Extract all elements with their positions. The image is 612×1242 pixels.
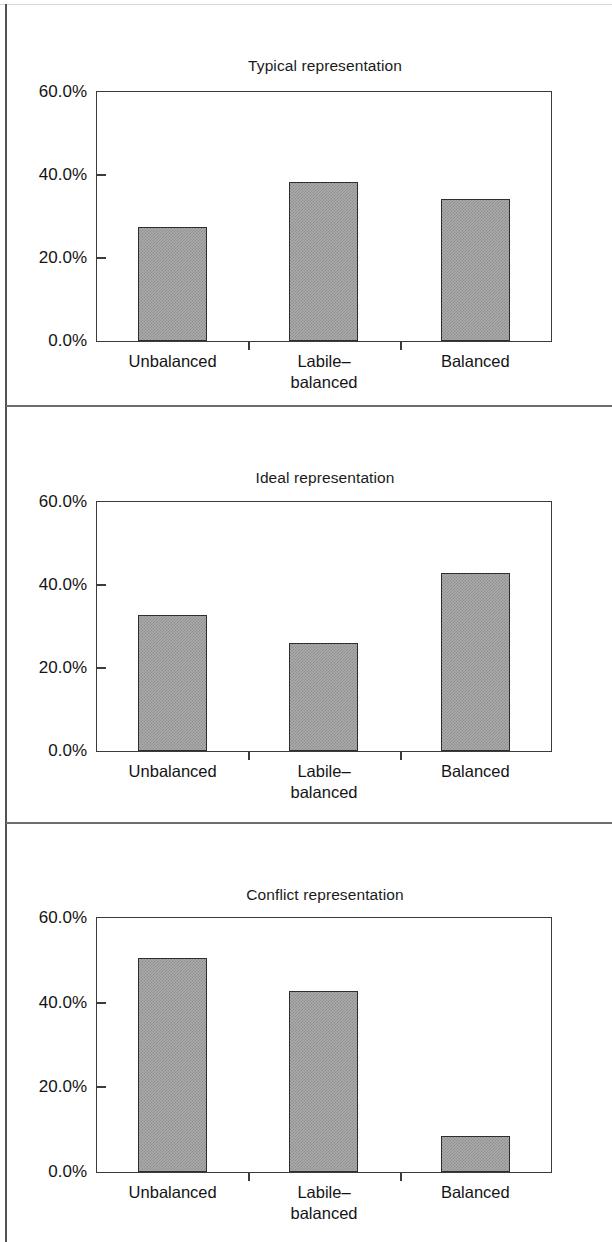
y-axis-tick-ideal-2 [97,667,106,669]
y-axis-tick-ideal-1 [97,584,106,586]
x-axis-tick-typical-0 [248,341,250,350]
plot-inner-ideal: 60.0%40.0%20.0%0.0%UnbalancedLabile– bal… [97,502,551,751]
chart-title-conflict: Conflict representation [96,886,554,904]
x-axis-tick-conflict-0 [248,1172,250,1181]
y-axis-tick-typical-1 [97,174,106,176]
chart-conflict: Conflict representation 60.0%40.0%20.0%0… [96,824,554,1242]
y-axis-label-ideal-1: 40.0% [39,575,87,595]
x-axis-label-typical-0: Unbalanced [129,351,217,372]
y-axis-label-ideal-0: 60.0% [39,492,87,512]
x-axis-label-ideal-1: Labile– balanced [291,761,358,803]
x-axis-tick-typical-1 [400,341,402,350]
x-axis-label-typical-2: Balanced [441,351,510,372]
y-axis-label-typical-3: 0.0% [48,331,87,351]
x-axis-label-conflict-2: Balanced [441,1182,510,1203]
y-axis-label-ideal-3: 0.0% [48,741,87,761]
plot-area-ideal: 60.0%40.0%20.0%0.0%UnbalancedLabile– bal… [96,501,552,752]
chart-panel-typical: Typical representation 60.0%40.0%20.0%0.… [0,0,612,405]
plot-inner-typical: 60.0%40.0%20.0%0.0%UnbalancedLabile– bal… [97,92,551,341]
x-axis-label-ideal-0: Unbalanced [129,761,217,782]
x-axis-label-typical-1: Labile– balanced [291,351,358,393]
x-axis-label-ideal-2: Balanced [441,761,510,782]
x-axis-tick-ideal-1 [400,751,402,760]
x-axis-label-conflict-0: Unbalanced [129,1182,217,1203]
y-axis-label-ideal-2: 20.0% [39,658,87,678]
y-axis-label-typical-1: 40.0% [39,165,87,185]
chart-ideal: Ideal representation 60.0%40.0%20.0%0.0%… [96,407,554,822]
bar-conflict-0 [138,958,207,1172]
y-axis-tick-conflict-2 [97,1086,106,1088]
bar-conflict-2 [441,1136,510,1172]
bar-typical-1 [289,182,358,341]
chart-title-ideal: Ideal representation [96,469,554,487]
x-axis-tick-conflict-1 [400,1172,402,1181]
y-axis-label-conflict-1: 40.0% [39,993,87,1013]
bar-typical-0 [138,227,207,341]
bar-ideal-1 [289,643,358,751]
x-axis-label-conflict-1: Labile– balanced [291,1182,358,1224]
bar-ideal-0 [138,615,207,751]
plot-area-conflict: 60.0%40.0%20.0%0.0%UnbalancedLabile– bal… [96,917,552,1173]
bar-conflict-1 [289,991,358,1172]
chart-typical: Typical representation 60.0%40.0%20.0%0.… [96,0,554,405]
chart-panel-ideal: Ideal representation 60.0%40.0%20.0%0.0%… [0,407,612,822]
figure-page: Typical representation 60.0%40.0%20.0%0.… [0,0,612,1242]
y-axis-tick-typical-2 [97,257,106,259]
chart-title-typical: Typical representation [96,57,554,75]
bar-ideal-2 [441,573,510,751]
y-axis-label-typical-2: 20.0% [39,248,87,268]
x-axis-tick-ideal-0 [248,751,250,760]
y-axis-label-conflict-0: 60.0% [39,908,87,928]
plot-area-typical: 60.0%40.0%20.0%0.0%UnbalancedLabile– bal… [96,91,552,342]
chart-panel-conflict: Conflict representation 60.0%40.0%20.0%0… [0,824,612,1242]
bar-typical-2 [441,199,510,341]
y-axis-label-conflict-2: 20.0% [39,1077,87,1097]
y-axis-tick-conflict-1 [97,1002,106,1004]
y-axis-label-typical-0: 60.0% [39,82,87,102]
y-axis-label-conflict-3: 0.0% [48,1162,87,1182]
plot-inner-conflict: 60.0%40.0%20.0%0.0%UnbalancedLabile– bal… [97,918,551,1172]
